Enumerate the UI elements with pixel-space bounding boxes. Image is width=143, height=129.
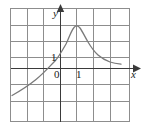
x-axis-label: x <box>131 69 136 80</box>
coordinate-plot <box>0 0 143 129</box>
grid-horizontal-lines <box>11 26 130 102</box>
graph-figure: y x 1 0 1 <box>0 0 143 129</box>
x-axis-tick-label-1: 1 <box>76 69 82 80</box>
plotted-curve <box>12 26 121 96</box>
y-axis-label: y <box>53 8 58 19</box>
y-axis-tick-label-1: 1 <box>51 52 57 63</box>
origin-tick-label: 0 <box>54 69 60 80</box>
